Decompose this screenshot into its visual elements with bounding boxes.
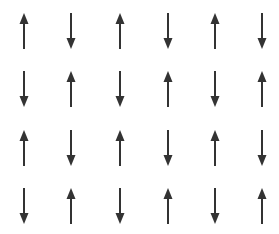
arrow-down-icon: [114, 188, 126, 224]
spin-arrow-grid: [0, 0, 279, 234]
arrow-up-icon: [18, 130, 30, 166]
arrow-down-icon: [256, 130, 268, 166]
arrow-up-icon: [256, 188, 268, 224]
arrow-down-icon: [209, 71, 221, 107]
arrow-down-icon: [114, 71, 126, 107]
arrow-up-icon: [114, 13, 126, 49]
arrow-up-icon: [65, 188, 77, 224]
arrow-down-icon: [65, 13, 77, 49]
arrow-down-icon: [256, 13, 268, 49]
arrow-down-icon: [209, 188, 221, 224]
arrow-down-icon: [18, 71, 30, 107]
arrow-up-icon: [209, 130, 221, 166]
arrow-up-icon: [65, 71, 77, 107]
arrow-up-icon: [209, 13, 221, 49]
arrow-up-icon: [162, 188, 174, 224]
arrow-up-icon: [162, 71, 174, 107]
arrow-up-icon: [256, 71, 268, 107]
arrow-up-icon: [18, 13, 30, 49]
arrow-down-icon: [65, 130, 77, 166]
arrow-down-icon: [162, 13, 174, 49]
arrow-down-icon: [162, 130, 174, 166]
arrow-up-icon: [114, 130, 126, 166]
arrow-down-icon: [18, 188, 30, 224]
